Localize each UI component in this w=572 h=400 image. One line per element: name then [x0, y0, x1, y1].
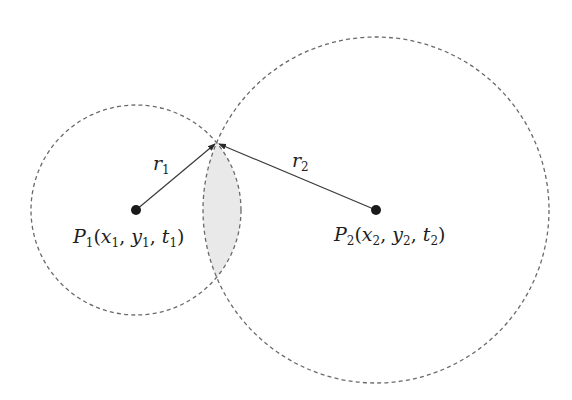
point-label-p1: P1(x1, y1, t1) [72, 225, 184, 250]
diagram-canvas: r1 r2 P1(x1, y1, t1) P2(x2, y2, t2) [0, 0, 572, 400]
point-p2-dot [371, 205, 381, 215]
radius-label-r1: r1 [153, 152, 170, 177]
radius-line-1 [136, 144, 215, 210]
point-p1-dot [131, 205, 141, 215]
point-label-p2: P2(x2, y2, t2) [333, 223, 445, 248]
radius-label-r2: r2 [292, 149, 309, 174]
